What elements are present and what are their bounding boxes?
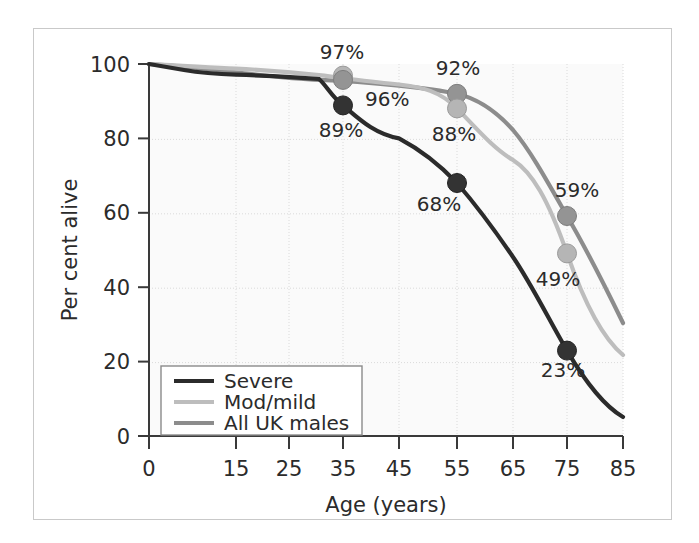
label-severe-age-55: 68%: [417, 192, 461, 216]
x-axis-ticks: [149, 436, 623, 449]
marker-severe-age-35: [334, 96, 353, 115]
label-all-uk-males-age-75: 59%: [555, 178, 599, 202]
chart-legend: Severe Mod/mild All UK males: [161, 366, 362, 435]
label-all-uk-males-age-55: 92%: [436, 56, 480, 80]
y-tick-label-20: 20: [103, 350, 130, 374]
survival-line-chart: 100 80 60 40 20 0 0 15 25 35 45 55 65 75…: [34, 29, 673, 521]
x-tick-label-85: 85: [610, 457, 637, 481]
x-tick-label-65: 65: [500, 457, 527, 481]
x-tick-label-0: 0: [142, 457, 155, 481]
x-tick-label-15: 15: [223, 457, 250, 481]
figure-root: 100 80 60 40 20 0 0 15 25 35 45 55 65 75…: [0, 0, 699, 543]
figure-frame: 100 80 60 40 20 0 0 15 25 35 45 55 65 75…: [33, 28, 672, 520]
x-tick-label-75: 75: [554, 457, 581, 481]
y-axis-ticks: [138, 64, 149, 436]
label-mod-mild-age-55: 88%: [432, 122, 476, 146]
x-tick-label-35: 35: [330, 457, 357, 481]
y-tick-label-100: 100: [90, 53, 130, 77]
marker-mod-mild-age-75: [558, 244, 577, 263]
x-tick-label-45: 45: [386, 457, 413, 481]
y-tick-label-40: 40: [103, 276, 130, 300]
label-all-uk-males-age-35: 96%: [365, 87, 409, 111]
label-severe-age-35: 89%: [319, 118, 363, 142]
marker-mod-mild-age-55: [448, 99, 467, 118]
x-tick-label-25: 25: [276, 457, 303, 481]
x-axis-title: Age (years): [325, 493, 446, 517]
label-mod-mild-age-75: 49%: [536, 267, 580, 291]
y-tick-label-0: 0: [117, 425, 130, 449]
label-mod-mild-age-35: 97%: [320, 40, 364, 64]
y-tick-label-80: 80: [103, 127, 130, 151]
y-axis-title: Per cent alive: [58, 179, 82, 322]
label-severe-age-75: 23%: [541, 358, 585, 382]
marker-all-uk-males-age-35: [334, 70, 353, 89]
x-tick-label-55: 55: [444, 457, 471, 481]
marker-severe-age-55: [448, 174, 467, 193]
marker-all-uk-males-age-75: [558, 207, 577, 226]
legend-label-all-uk-males: All UK males: [224, 411, 349, 435]
y-tick-label-60: 60: [103, 201, 130, 225]
